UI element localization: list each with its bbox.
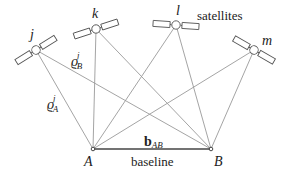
receiver-label-a: A	[84, 155, 93, 169]
vector-symbol: b	[144, 134, 152, 149]
satellite-label-k: k	[92, 7, 98, 21]
satellite-label-m: m	[262, 34, 272, 48]
range-sub: B	[77, 61, 83, 71]
range-label-rho-b-j: ϱjB	[71, 53, 86, 69]
range-sup: j	[77, 50, 80, 60]
baseline-vector-label: bAB	[144, 133, 163, 149]
sight-line-k-a	[93, 29, 96, 149]
satellite-label-j: j	[30, 28, 34, 42]
baseline-text: baseline	[131, 155, 174, 168]
range-sup: j	[53, 93, 56, 103]
satellites-group	[14, 18, 276, 66]
vector-sub: AB	[152, 140, 163, 150]
sight-line-m-b	[211, 50, 254, 149]
satellite-label-l: l	[176, 4, 180, 18]
satellite-j-icon	[14, 34, 57, 65]
range-label-rho-a-j: ϱjA	[47, 96, 62, 112]
sight-lines	[36, 25, 254, 149]
receiver-label-b: B	[214, 155, 223, 169]
satellite-l-icon	[153, 19, 199, 31]
range-sub: A	[53, 104, 59, 114]
receiver-a-icon	[91, 147, 95, 151]
gps-baseline-diagram: satellites j k l m ϱjB ϱjA bAB A B basel…	[0, 0, 294, 173]
receiver-b-icon	[209, 147, 213, 151]
sight-line-m-a	[93, 50, 254, 149]
sight-line-l-a	[93, 25, 176, 149]
satellites-title: satellites	[197, 9, 243, 22]
sight-line-j-b	[36, 50, 211, 149]
